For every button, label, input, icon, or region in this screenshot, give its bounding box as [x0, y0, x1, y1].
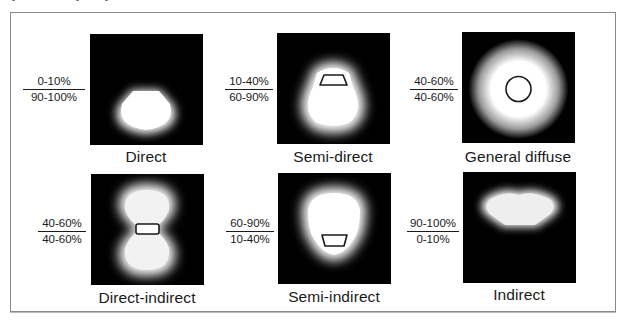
- luminaire-bowl-icon: [322, 235, 347, 246]
- panel-direct: [90, 34, 203, 145]
- downlight-value: 10-40%: [226, 232, 274, 246]
- distribution-semi-direct: [277, 33, 390, 144]
- caption-semi-direct: Semi-direct: [253, 148, 413, 166]
- caption-semi-indirect: Semi-indirect: [254, 288, 414, 306]
- caption-general-diffuse: General diffuse: [438, 148, 598, 166]
- distribution-direct-indirect: [91, 174, 204, 285]
- ratio-general-diffuse: 40-60% 40-60%: [410, 75, 458, 104]
- caption-indirect: Indirect: [439, 286, 599, 304]
- uplight-value: 10-40%: [225, 75, 273, 90]
- panel-general-diffuse: [462, 32, 575, 143]
- downlight-value: 40-60%: [38, 232, 86, 246]
- distribution-indirect: [463, 172, 576, 283]
- distribution-general-diffuse: [462, 32, 575, 143]
- cropped-header-fragment: [0, 0, 627, 4]
- uplight-value: 90-100%: [407, 217, 459, 232]
- downlight-value: 60-90%: [225, 90, 273, 104]
- uplight-value: 40-60%: [410, 75, 458, 90]
- downlight-value: 90-100%: [23, 90, 85, 104]
- panel-semi-direct: [277, 33, 390, 144]
- ratio-indirect: 90-100% 0-10%: [407, 217, 459, 246]
- downlight-value: 0-10%: [407, 232, 459, 246]
- downlight-value: 40-60%: [410, 90, 458, 104]
- panel-indirect: [463, 172, 576, 283]
- light-core: [121, 91, 171, 130]
- ratio-semi-direct: 10-40% 60-90%: [225, 75, 273, 104]
- ratio-direct: 0-10% 90-100%: [23, 75, 85, 104]
- distribution-semi-indirect: [278, 173, 391, 284]
- caption-direct: Direct: [66, 148, 226, 166]
- caption-direct-indirect: Direct-indirect: [67, 289, 227, 307]
- uplight-value: 0-10%: [23, 75, 85, 90]
- uplight-value: 40-60%: [38, 217, 86, 232]
- panel-semi-indirect: [278, 173, 391, 284]
- panel-direct-indirect: [91, 174, 204, 285]
- luminaire-globe-icon: [506, 77, 531, 102]
- luminaire-pendant-icon: [136, 224, 159, 234]
- luminaire-trapezoid-icon: [320, 75, 347, 85]
- distribution-direct: [90, 34, 203, 145]
- uplight-value: 60-90%: [226, 217, 274, 232]
- ratio-direct-indirect: 40-60% 40-60%: [38, 217, 86, 246]
- ratio-semi-indirect: 60-90% 10-40%: [226, 217, 274, 246]
